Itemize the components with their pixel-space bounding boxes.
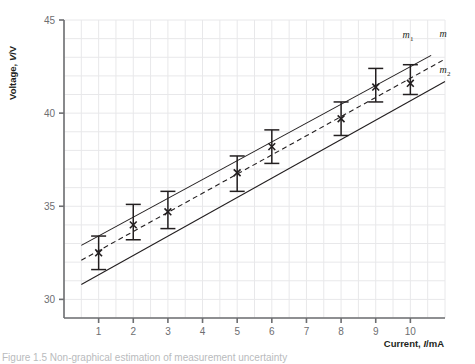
y-axis-title: Voltage, V/V bbox=[7, 45, 18, 100]
x-axis-title: Current, I/mA bbox=[384, 338, 444, 349]
figure-container: 30354045 12345678910 m1mm2 Voltage, V/V … bbox=[0, 0, 475, 364]
svg-text:4: 4 bbox=[200, 326, 206, 337]
svg-text:6: 6 bbox=[269, 326, 275, 337]
figure-caption: Figure 1.5 Non-graphical estimation of m… bbox=[2, 352, 472, 363]
data-point bbox=[368, 68, 383, 102]
svg-text:10: 10 bbox=[405, 326, 417, 337]
svg-text:8: 8 bbox=[338, 326, 344, 337]
svg-text:m: m bbox=[439, 28, 446, 39]
voltage-current-chart: 30354045 12345678910 m1mm2 Voltage, V/V … bbox=[0, 0, 475, 364]
svg-text:1: 1 bbox=[96, 326, 102, 337]
svg-text:7: 7 bbox=[304, 326, 310, 337]
data-point bbox=[91, 236, 106, 270]
svg-text:45: 45 bbox=[44, 15, 56, 26]
svg-text:m1: m1 bbox=[402, 29, 414, 43]
svg-text:9: 9 bbox=[373, 326, 379, 337]
svg-text:40: 40 bbox=[44, 108, 56, 119]
svg-text:5: 5 bbox=[234, 326, 240, 337]
svg-text:3: 3 bbox=[165, 326, 171, 337]
data-point bbox=[230, 156, 245, 191]
y-axis-ticks: 30354045 bbox=[44, 15, 64, 305]
svg-text:35: 35 bbox=[44, 201, 56, 212]
data-point bbox=[264, 130, 279, 164]
grid-lines bbox=[64, 20, 445, 318]
svg-text:2: 2 bbox=[130, 326, 136, 337]
fit-lines bbox=[81, 55, 445, 284]
svg-text:30: 30 bbox=[44, 294, 56, 305]
x-axis-ticks: 12345678910 bbox=[96, 318, 417, 337]
